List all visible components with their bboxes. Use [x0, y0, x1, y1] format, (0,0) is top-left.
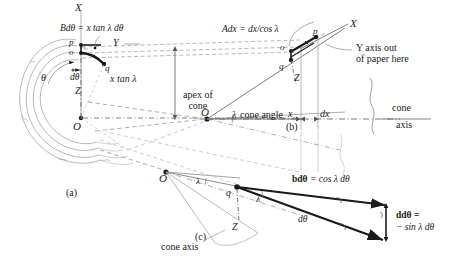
panel-b-dim-dx-label: dx — [320, 109, 329, 120]
panel-a-dtheta-label: dθ — [70, 72, 79, 82]
panel-b-brace — [370, 78, 374, 134]
panel-c-lambda-mid: λ — [256, 194, 260, 204]
panel-b-generator-upper — [207, 28, 345, 119]
panel-c-formula-d-line2: − sin λ dθ — [396, 222, 434, 232]
panel-c-point-q-label: q — [226, 188, 231, 198]
panel-c-lambda-arc — [205, 178, 206, 184]
panel-c-axis-z-label: Z — [232, 222, 238, 233]
panel-b-leader-A — [289, 22, 314, 46]
panel-c-point-O-label: O — [159, 173, 167, 185]
panel-b-axis-x-label: X — [350, 18, 357, 30]
dimension-x-tan-lambda-label: x tan λ — [110, 74, 137, 85]
panel-a-point-O-label: O — [73, 121, 81, 133]
panel-c-z-axis — [237, 189, 239, 222]
panel-b-x-axis — [300, 24, 348, 49]
panel-b-point-p-label: p — [313, 27, 318, 37]
panel-c-formula-d-line1: ddθ = — [396, 210, 419, 220]
panel-c-formula-b: bdθ = cos λ dθ — [292, 174, 350, 184]
panel-c-caption: (c) — [195, 232, 206, 243]
panel-c-formula-d-symbol: ddθ = — [396, 210, 419, 220]
panel-b-formula-A: Adx = dx/cos λ — [222, 24, 279, 34]
panel-b-cone-axis-top: cone — [392, 103, 411, 114]
panel-b-cone-axis-bottom: axis — [396, 120, 412, 131]
panel-c-dtheta-label: dθ — [298, 214, 307, 224]
panel-b-cone-angle-lambda: λ — [232, 110, 236, 121]
panel-a-axis-x-label: X — [75, 2, 82, 14]
panel-b-point-q-label: q — [279, 62, 284, 72]
panel-c-cone-outline — [166, 172, 258, 245]
panel-b-axis-z-label: Z — [294, 73, 300, 84]
panel-a-ring-tails — [97, 142, 133, 164]
panel-b-dim-x-label: x — [288, 109, 292, 120]
panel-c-upper-dashes — [100, 133, 300, 184]
dimension-dx — [300, 117, 319, 122]
panel-c-cone-axis-leader — [205, 230, 225, 240]
panel-a-axis-y-label: Y — [113, 38, 119, 49]
panel-ab-link-dashes — [128, 118, 206, 150]
panel-c-formula-b-rhs: = cos λ dθ — [308, 174, 350, 184]
panel-a-point-q-label: q — [105, 64, 110, 74]
dimension-x-tan-lambda — [173, 46, 178, 120]
figure-container: X Bdθ = x tan λ dθ p o q Y θ dθ Z O x ta… — [0, 0, 466, 262]
panel-c-gen-upper — [166, 172, 240, 178]
panel-a-apex-dashed-2 — [95, 119, 206, 131]
panel-b-y-axis-note: Y axis out of paper here — [356, 43, 409, 65]
panel-a-axis-z-label: Z — [75, 86, 81, 97]
panel-b-leader-Y — [326, 44, 352, 50]
panel-a-theta-label: θ — [41, 73, 46, 84]
panel-c-cone-axis-label: cone axis — [161, 242, 199, 253]
panel-b-point-O-label: O — [201, 107, 209, 119]
panel-c-cone-axis-line — [166, 172, 300, 215]
panel-b-cone-angle-text: cone angle — [240, 110, 283, 121]
panel-b-generator-lower — [207, 119, 340, 150]
panel-c-incoming-dashed — [100, 150, 164, 170]
panel-c-lambda-apex: λ — [196, 177, 200, 187]
panel-b-caption: (b) — [286, 122, 298, 133]
panel-b-point-o-label: o — [280, 43, 285, 53]
panel-bc-link — [301, 131, 344, 180]
panel-a-caption: (a) — [66, 188, 77, 199]
panel-a-point-o-label: o — [69, 48, 74, 58]
panel-a-formula-B: Bdθ = x tan λ dθ — [60, 23, 123, 33]
panel-b-tick-p — [322, 33, 324, 36]
panel-c-formula-b-symbol: bdθ — [292, 174, 308, 184]
